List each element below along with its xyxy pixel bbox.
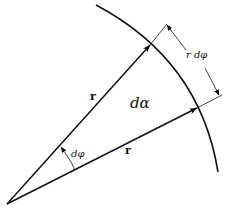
label-angle-dphi: dφ <box>71 149 84 159</box>
arc-curve <box>96 5 218 172</box>
radius-vector-upper <box>7 45 150 204</box>
label-r-lower: r <box>125 145 131 156</box>
extension-line-upper <box>150 24 167 45</box>
diagram-svg <box>0 0 225 211</box>
dimension-arrow-top <box>167 25 186 50</box>
polar-area-element-diagram: r dα r dφ r dφ <box>0 0 225 211</box>
extension-line-lower <box>197 95 222 108</box>
label-r-upper: r <box>90 91 96 102</box>
label-arc-length: r dφ <box>186 50 207 60</box>
dimension-arrow-bottom <box>205 68 219 95</box>
radius-vector-lower <box>7 108 197 204</box>
label-area-element: dα <box>130 96 150 111</box>
